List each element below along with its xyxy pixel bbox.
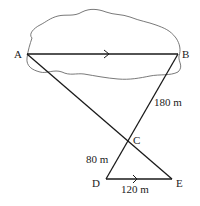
- point-label-A: A: [14, 48, 22, 60]
- measurement-DE: 120 m: [121, 183, 149, 195]
- point-label-C: C: [133, 134, 140, 146]
- segment-BD: [106, 54, 178, 179]
- geometry-diagram: A B C D E 180 m 80 m 120 m: [0, 0, 200, 206]
- point-label-B: B: [182, 48, 189, 60]
- point-label-D: D: [92, 177, 100, 189]
- diagram-container: A B C D E 180 m 80 m 120 m: [0, 0, 200, 206]
- point-label-E: E: [176, 177, 183, 189]
- measurement-BC: 180 m: [154, 96, 182, 108]
- measurement-CD: 80 m: [86, 153, 109, 165]
- lake-outline: [27, 9, 181, 79]
